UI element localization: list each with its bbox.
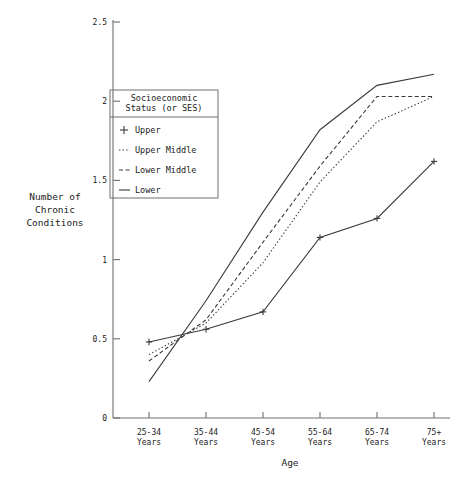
x-tick-label: 75+	[427, 428, 442, 437]
y-tick-label: 0	[102, 414, 107, 423]
legend-entry-label: Lower	[135, 185, 161, 195]
y-tick-label: 2.5	[93, 18, 108, 27]
series-line-upper	[149, 161, 434, 342]
chart-container: 00.511.522.525-34Years35-44Years45-54Yea…	[0, 0, 460, 478]
x-tick-label: Years	[251, 438, 275, 447]
x-tick-label: Years	[422, 438, 446, 447]
x-tick-label: 55-64	[308, 428, 332, 437]
y-tick-label: 0.5	[93, 335, 108, 344]
legend-entry-label: Upper	[135, 125, 161, 135]
x-tick-label: 45-54	[251, 428, 275, 437]
series-line-lower	[149, 74, 434, 381]
x-tick-label: Years	[365, 438, 389, 447]
legend-entry-label: Lower Middle	[135, 165, 196, 175]
y-tick-label: 1.5	[93, 176, 108, 185]
x-tick-label: 25-34	[137, 428, 161, 437]
y-axis-title: Conditions	[26, 217, 83, 228]
x-tick-label: 65-74	[365, 428, 389, 437]
x-tick-label: Years	[194, 438, 218, 447]
legend-title: Status (or SES)	[126, 103, 203, 113]
y-axis-title: Chronic	[35, 204, 75, 215]
y-tick-label: 1	[102, 256, 107, 265]
y-axis-title: Number of	[29, 191, 80, 202]
legend-entry-label: Upper Middle	[135, 145, 196, 155]
series-line-upper-middle	[149, 96, 434, 354]
x-tick-label: 35-44	[194, 428, 218, 437]
x-tick-label: Years	[137, 438, 161, 447]
y-tick-label: 2	[102, 97, 107, 106]
x-tick-label: Years	[308, 438, 332, 447]
x-axis-title: Age	[281, 457, 298, 468]
legend-title: Socioeconomic	[131, 93, 198, 103]
line-chart: 00.511.522.525-34Years35-44Years45-54Yea…	[0, 0, 460, 478]
